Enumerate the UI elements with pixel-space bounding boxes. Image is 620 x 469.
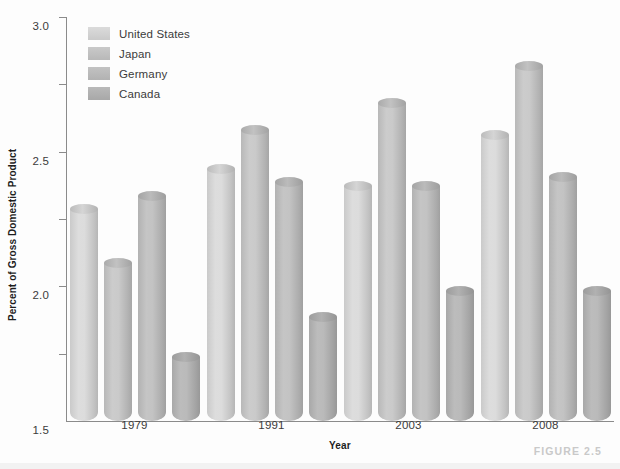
figure-caption: FIGURE 2.5 (534, 445, 602, 457)
bar-united-states-2008 (481, 130, 509, 421)
bar-body (172, 357, 200, 421)
y-tick-mark: 0.5 (59, 354, 66, 355)
bar-germany-2008 (549, 172, 577, 421)
bar-body (309, 317, 337, 421)
bar-body (446, 291, 474, 421)
bar-japan-2008 (515, 61, 543, 421)
legend-label: Canada (119, 88, 160, 100)
y-tick-mark: 1.5 (59, 219, 66, 220)
legend-swatch-icon (88, 27, 110, 40)
bar-body (583, 291, 611, 421)
x-axis-title: Year (66, 440, 614, 451)
bar-body (481, 135, 509, 421)
x-axis-label-2008: 2008 (532, 419, 558, 431)
legend-label: Germany (119, 68, 167, 80)
legend-swatch-icon (88, 87, 110, 100)
bar-body (515, 66, 543, 421)
bar-body (378, 103, 406, 421)
y-tick-mark: 3.0 (59, 17, 66, 18)
bar-body (412, 186, 440, 421)
legend-item-united-states: United States (88, 26, 190, 41)
bar-body (241, 130, 269, 421)
bar-united-states-1979 (70, 204, 98, 421)
x-axis-label-2003: 2003 (395, 419, 421, 431)
bar-body (275, 182, 303, 421)
bar-body (549, 177, 577, 421)
bottom-rule (0, 463, 620, 469)
legend-item-germany: Germany (88, 66, 190, 81)
y-tick-label: 2.5 (32, 155, 49, 167)
y-tick-label: 2.0 (32, 289, 49, 301)
figure-container: Percent of Gross Domestic Product 0.51.0… (0, 0, 620, 469)
bar-canada-1991 (309, 312, 337, 421)
bar-canada-2003 (446, 286, 474, 421)
bar-japan-1979 (104, 258, 132, 421)
bar-cap (481, 130, 509, 140)
y-axis-line (66, 17, 67, 421)
bar-body (104, 263, 132, 421)
bar-canada-1979 (172, 352, 200, 421)
bar-germany-2003 (412, 181, 440, 421)
y-tick-mark: 2.0 (59, 152, 66, 153)
legend-swatch-icon (88, 67, 110, 80)
bar-united-states-2003 (344, 181, 372, 421)
bar-germany-1991 (275, 177, 303, 421)
bar-cap (70, 204, 98, 214)
legend-label: Japan (119, 48, 151, 60)
y-tick-mark: 1.0 (59, 286, 66, 287)
legend-swatch-icon (88, 47, 110, 60)
bar-cap (207, 164, 235, 174)
bar-united-states-1991 (207, 164, 235, 421)
bar-body (70, 209, 98, 421)
bar-canada-2008 (583, 286, 611, 421)
bar-cap (378, 98, 406, 108)
bar-cap (104, 258, 132, 268)
chart-legend: United StatesJapanGermanyCanada (88, 26, 190, 101)
y-axis-title: Percent of Gross Domestic Product (7, 148, 18, 320)
y-tick-mark: 2.5 (59, 84, 66, 85)
bar-japan-2003 (378, 98, 406, 421)
bar-germany-1979 (138, 191, 166, 421)
x-axis-label-1991: 1991 (258, 419, 284, 431)
bar-body (138, 196, 166, 421)
bar-body (344, 186, 372, 421)
legend-item-canada: Canada (88, 86, 190, 101)
bar-cap (549, 172, 577, 182)
y-tick-label: 3.0 (32, 20, 49, 32)
bar-japan-1991 (241, 125, 269, 421)
bar-cap (138, 191, 166, 201)
y-tick-label: 1.5 (32, 424, 49, 436)
legend-item-japan: Japan (88, 46, 190, 61)
bar-cap (309, 312, 337, 322)
legend-label: United States (119, 28, 190, 40)
bar-body (207, 169, 235, 421)
bar-cap (241, 125, 269, 135)
x-axis-label-1979: 1979 (121, 419, 147, 431)
